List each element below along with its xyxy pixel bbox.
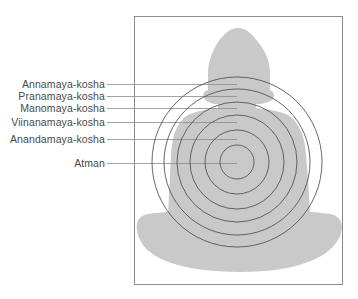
label-atman: Atman: [74, 157, 105, 169]
label-pranamaya-kosha: Pranamaya-kosha: [18, 90, 105, 102]
label-manomaya-kosha: Manomaya-kosha: [20, 102, 105, 114]
label-anandamaya-kosha: Anandamaya-kosha: [10, 133, 105, 145]
kosha-diagram: Annamaya-kosha Pranamaya-kosha Manomaya-…: [0, 0, 358, 299]
label-viinanamaya-kosha: Viinanamaya-kosha: [11, 116, 105, 128]
label-annamaya-kosha: Annamaya-kosha: [22, 78, 105, 90]
